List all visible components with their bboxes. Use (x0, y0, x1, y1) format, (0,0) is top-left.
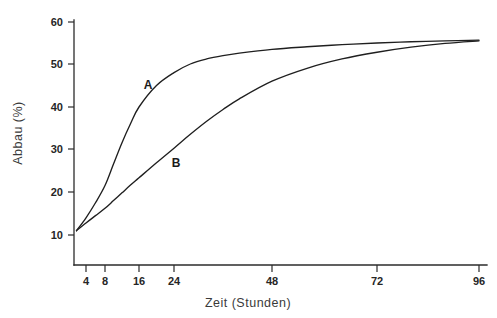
x-tick-label: 72 (371, 275, 383, 287)
y-tick-label: 10 (51, 229, 63, 241)
data-curve-b (77, 41, 480, 231)
x-tick-label: 24 (168, 275, 181, 287)
x-axis-title: Zeit (Stunden) (205, 296, 291, 310)
x-tick-label: 48 (266, 275, 278, 287)
curve-label-a: A (144, 78, 153, 92)
y-tick-label: 60 (51, 16, 63, 28)
x-axis-tick-labels: 4 8 16 24 48 72 96 (83, 275, 485, 287)
x-tick-label: 4 (83, 275, 90, 287)
y-tick-label: 30 (51, 143, 63, 155)
x-tick-label: 8 (102, 275, 108, 287)
y-axis-ticks (68, 22, 74, 235)
x-tick-label: 16 (133, 275, 145, 287)
x-tick-label: 96 (473, 275, 485, 287)
y-tick-label: 40 (51, 101, 63, 113)
curve-label-b: B (172, 156, 181, 170)
chart-plot-area: 60 50 40 30 20 10 4 8 16 24 48 72 96 (0, 0, 497, 318)
y-tick-label: 20 (51, 186, 63, 198)
chart-figure: 60 50 40 30 20 10 4 8 16 24 48 72 96 (0, 0, 497, 318)
x-axis-ticks (86, 265, 479, 272)
y-axis-title: Abbau (%) (11, 101, 25, 165)
data-curve-a (77, 40, 480, 231)
y-axis-tick-labels: 60 50 40 30 20 10 (51, 16, 63, 241)
y-tick-label: 50 (51, 58, 63, 70)
